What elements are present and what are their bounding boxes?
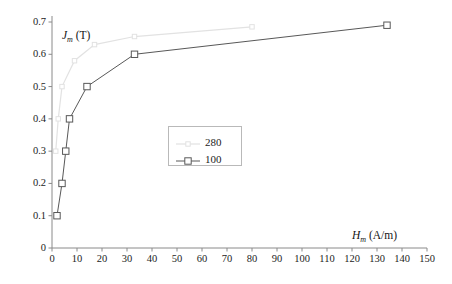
y-tick-label-6: 0.6	[33, 49, 46, 60]
y-tick-label-7: 0.7	[33, 17, 46, 28]
series-group	[54, 22, 391, 219]
series-point-100-1	[59, 180, 65, 186]
series-point-280-5	[132, 34, 136, 38]
y-axis-title: Jm (T)	[62, 30, 90, 42]
x-tick-label-14: 140	[394, 254, 410, 265]
series-point-100-5	[131, 51, 137, 57]
x-tick-label-2: 20	[97, 254, 108, 265]
legend-label-280: 280	[205, 137, 222, 148]
series-point-280-4	[92, 42, 96, 46]
legend-marker-280	[186, 142, 190, 146]
x-tick-label-8: 80	[247, 254, 258, 265]
x-tick-label-15: 150	[419, 254, 435, 265]
series-point-100-6	[384, 22, 390, 28]
x-tick-label-7: 70	[222, 254, 233, 265]
y-tick-label-3: 0.3	[33, 146, 46, 157]
x-tick-label-12: 120	[344, 254, 360, 265]
legend: 280100	[168, 126, 242, 166]
series-point-280-3	[72, 59, 76, 63]
series-point-280-1	[56, 117, 60, 121]
series-point-280-2	[60, 84, 64, 88]
series-point-100-4	[84, 83, 90, 89]
legend-swatch-100	[175, 153, 201, 165]
x-tick-label-0: 0	[49, 254, 54, 265]
legend-item-100[interactable]: 100	[175, 152, 222, 166]
legend-swatch-280	[175, 136, 201, 148]
series-point-100-3	[66, 116, 72, 122]
series-point-280-0	[54, 149, 58, 153]
series-point-100-0	[54, 213, 60, 219]
x-tick-label-13: 130	[369, 254, 385, 265]
chart-figure: 00.10.20.30.40.50.60.7010203040506070809…	[0, 0, 452, 284]
x-tick-label-11: 110	[319, 254, 334, 265]
x-tick-label-5: 50	[172, 254, 183, 265]
series-point-280-6	[250, 25, 254, 29]
y-tick-label-2: 0.2	[33, 178, 46, 189]
series-100	[54, 22, 390, 219]
x-tick-label-10: 100	[294, 254, 310, 265]
legend-item-280[interactable]: 280	[175, 135, 222, 149]
series-point-100-2	[63, 148, 69, 154]
y-tick-label-1: 0.1	[33, 210, 46, 221]
legend-label-100: 100	[205, 154, 222, 165]
x-tick-label-1: 10	[72, 254, 83, 265]
x-tick-label-9: 90	[272, 254, 283, 265]
x-tick-label-3: 30	[122, 254, 133, 265]
y-tick-label-0: 0	[41, 243, 46, 254]
y-tick-label-5: 0.5	[33, 81, 46, 92]
y-tick-label-4: 0.4	[33, 114, 46, 125]
legend-marker-100	[185, 158, 191, 164]
x-tick-label-4: 40	[147, 254, 158, 265]
x-tick-label-6: 60	[197, 254, 208, 265]
series-line-100	[57, 25, 387, 215]
x-axis-title: Hm (A/m)	[352, 230, 397, 242]
